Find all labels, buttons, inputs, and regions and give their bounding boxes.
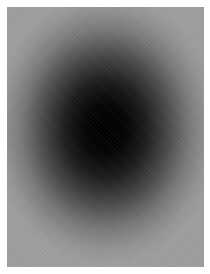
halftone-texture xyxy=(7,7,204,267)
dark-vignette-photo xyxy=(7,7,204,267)
image-canvas xyxy=(0,0,210,274)
